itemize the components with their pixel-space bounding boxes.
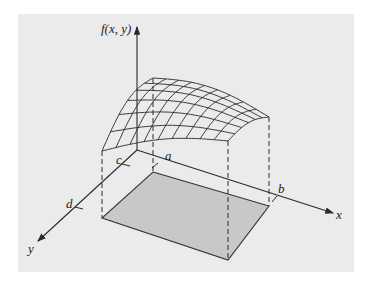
z-axis-label: f(x, y) — [101, 21, 131, 36]
surface-mesh — [102, 78, 269, 151]
integration-region — [102, 172, 269, 260]
label-d: d — [66, 196, 73, 211]
tick-d — [75, 207, 83, 209]
label-b: b — [278, 181, 285, 196]
label-c: c — [116, 152, 122, 167]
tick-c — [122, 164, 130, 166]
y-axis-label: y — [26, 241, 34, 256]
figure: f(x, y) x y a b c d — [0, 0, 372, 286]
surface-plot: f(x, y) x y a b c d — [0, 0, 372, 286]
x-axis-label: x — [335, 207, 342, 222]
label-a: a — [165, 148, 172, 163]
tick-b — [272, 196, 277, 202]
